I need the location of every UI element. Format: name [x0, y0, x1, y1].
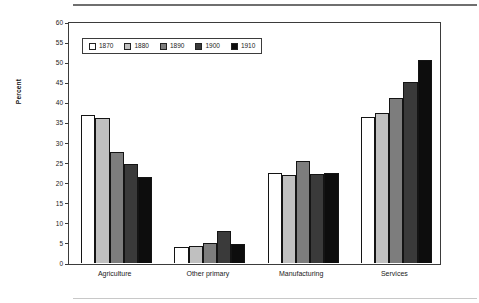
tick-label: 40 [56, 98, 63, 107]
tick-label: 35 [56, 118, 63, 127]
bar [389, 98, 403, 263]
bar [138, 177, 152, 263]
bar [296, 161, 310, 263]
tick-label: 55 [56, 38, 63, 47]
y-axis-title: Percent [15, 52, 22, 132]
bar [124, 164, 138, 263]
tick-label: 10 [56, 219, 63, 228]
tick-mark [65, 264, 69, 265]
bar [310, 174, 324, 263]
tick-mark [65, 63, 69, 64]
bar [282, 175, 296, 263]
tick-mark [65, 203, 69, 204]
bar-group [257, 24, 350, 263]
tick-label: 15 [56, 199, 63, 208]
bar [95, 118, 109, 263]
bar-group-bars [350, 24, 443, 263]
tick-label: 5 [59, 239, 63, 248]
tick-label: 25 [56, 159, 63, 168]
tick-mark [65, 43, 69, 44]
x-axis-label: Services [381, 270, 408, 277]
bar [231, 244, 245, 263]
tick-label: 45 [56, 78, 63, 87]
bar [174, 247, 188, 263]
x-axis-label: Other primary [186, 270, 229, 277]
bar [361, 117, 375, 263]
tick-mark [65, 163, 69, 164]
tick-mark [65, 183, 69, 184]
tick-label: 30 [56, 139, 63, 148]
tick-label: 20 [56, 179, 63, 188]
tick-label: 0 [59, 259, 63, 268]
tick-label: 50 [56, 58, 63, 67]
tick-mark [65, 103, 69, 104]
bar [81, 115, 95, 263]
tick-mark [65, 23, 69, 24]
bar-group [163, 24, 256, 263]
plot-area: 051015202530354045505560 1870 1880 1890 … [68, 22, 441, 265]
tick-mark [65, 123, 69, 124]
x-axis-label: Agriculture [98, 270, 131, 277]
bar-group-bars [70, 24, 163, 263]
bar [217, 231, 231, 263]
bar [268, 173, 282, 263]
bar-group [70, 24, 163, 263]
tick-mark [65, 83, 69, 84]
bar-group-bars [257, 24, 350, 263]
bar [110, 152, 124, 263]
bar-group-bars [163, 24, 256, 263]
tick-mark [65, 223, 69, 224]
bar [324, 173, 338, 263]
tick-mark [65, 243, 69, 244]
bars-layer [70, 24, 439, 263]
bar-chart: Percent 051015202530354045505560 1870 18… [0, 0, 479, 303]
bar [375, 113, 389, 263]
x-axis-label: Manufacturing [279, 270, 323, 277]
bar [403, 82, 417, 263]
bar [203, 243, 217, 263]
bar [189, 246, 203, 263]
bar-group [350, 24, 443, 263]
bar [418, 60, 432, 263]
tick-label: 60 [56, 18, 63, 27]
tick-mark [65, 143, 69, 144]
